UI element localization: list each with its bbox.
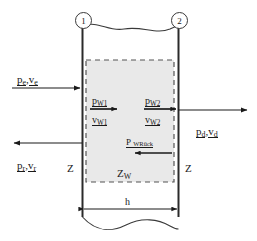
impedance-wall-label: ZW xyxy=(117,168,131,181)
wall-2-pressure-label: pW2 xyxy=(145,96,160,108)
transmitted-velocity-subscript: d xyxy=(214,130,218,139)
wall-return-symbol: P xyxy=(126,137,131,147)
node-2-label: 2 xyxy=(177,16,182,26)
diagram-canvas: 1 2 pe,ve pr,vr pd,vd pW1 vW1 pW2 vW2 P … xyxy=(0,0,257,241)
wall-2-pressure-subscript: W2 xyxy=(150,100,160,108)
wall-1-pressure-label: pW1 xyxy=(92,96,107,108)
node-2-marker: 2 xyxy=(171,12,188,29)
wall-1-velocity-label: vW1 xyxy=(92,115,107,127)
node-1-marker: 1 xyxy=(75,12,92,29)
transmitted-wave-label: pd,vd xyxy=(196,126,218,139)
incident-wave-label: pe,ve xyxy=(17,74,38,87)
impedance-left-label: Z xyxy=(67,163,74,174)
impedance-right-label: Z xyxy=(185,163,192,174)
thickness-dimension-label: h xyxy=(125,197,130,207)
wall-2-velocity-label: vW2 xyxy=(145,115,160,127)
wall-1-pressure-subscript: W1 xyxy=(97,100,107,108)
break-line-top xyxy=(83,24,179,31)
reflected-velocity-subscript: r xyxy=(33,164,36,173)
reflected-wave-label: pr,vr xyxy=(17,160,36,173)
impedance-wall-symbol: Z xyxy=(117,167,124,179)
wall-return-subscript: WRück xyxy=(133,140,153,147)
incident-velocity-subscript: e xyxy=(34,78,38,87)
break-line-bottom xyxy=(83,217,179,230)
wall-return-pressure-label: P WRück xyxy=(126,138,153,148)
node-1-label: 1 xyxy=(81,16,86,26)
wall-1-velocity-subscript: W1 xyxy=(97,119,107,127)
wall-2-velocity-subscript: W2 xyxy=(150,119,160,127)
impedance-wall-subscript: W xyxy=(124,172,131,181)
